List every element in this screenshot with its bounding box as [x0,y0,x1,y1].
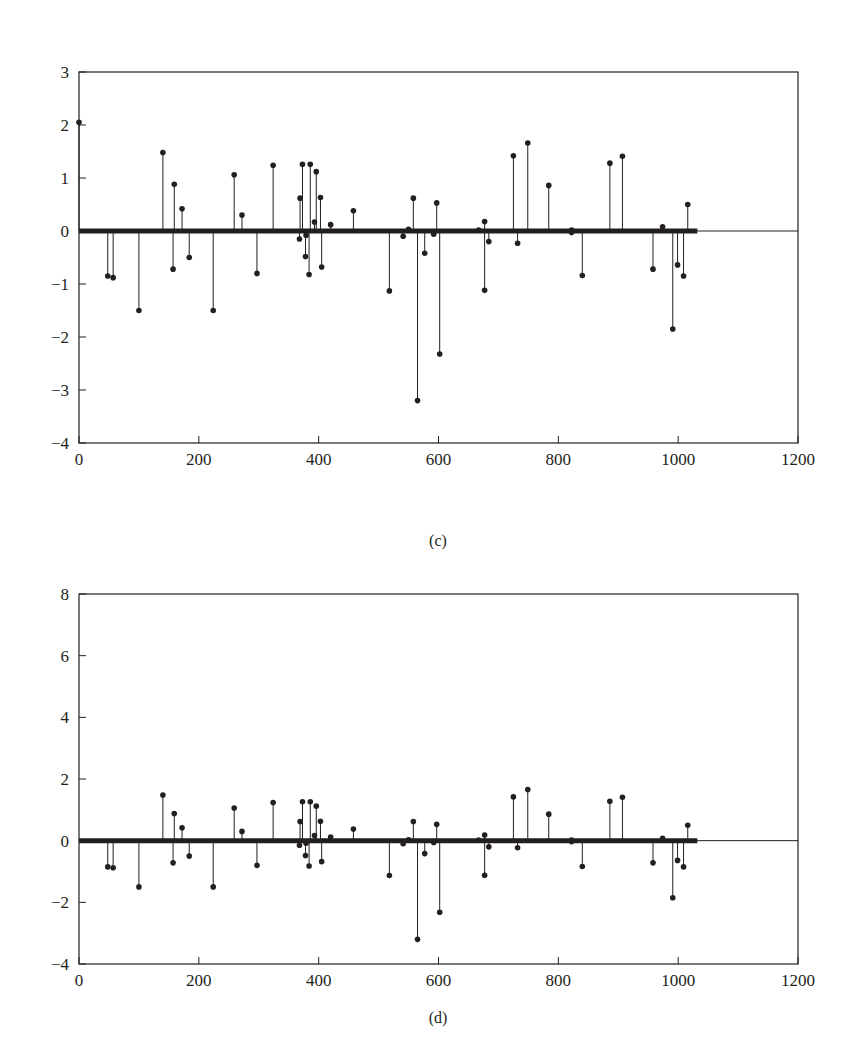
stem-marker [415,398,421,404]
stem-marker [313,169,319,175]
stem-marker [434,200,440,206]
stem-marker [239,829,245,835]
stem-marker [110,275,116,281]
stem-marker [239,212,245,218]
stem-marker [482,832,488,838]
stem-marker [415,937,421,943]
stem-marker [525,787,531,793]
stem-marker [171,811,177,817]
stem-marker [136,884,142,890]
stem-marker [482,872,488,878]
x-tick-label: 200 [186,450,212,469]
stem-marker [170,266,176,272]
stem-marker [434,822,440,828]
y-tick-label: −4 [51,434,70,453]
x-tick-label: 1200 [781,971,815,990]
y-tick-label: 8 [61,585,70,604]
figure: 020040060080010001200−4−3−2−10123 (c) 02… [0,0,859,1039]
stem-marker [670,326,676,332]
stem-marker [297,842,303,848]
stem-marker [171,182,177,188]
stem-marker [620,794,626,800]
stem-marker [179,825,185,831]
x-tick-label: 1000 [661,450,695,469]
stem-marker [387,873,393,879]
stem-marker [675,262,681,268]
stem-chart-c: 020040060080010001200−4−3−2−10123 [51,63,815,469]
stem-marker [160,792,166,798]
caption-c: (c) [429,532,447,550]
stem-marker [105,273,111,279]
stem-marker [681,864,687,870]
stem-marker [254,863,260,869]
stem-marker [319,859,325,865]
stem-marker [515,845,521,851]
stem-marker [313,803,319,809]
stem-marker [300,799,306,805]
x-tick-label: 0 [75,971,84,990]
y-tick-label: 6 [61,647,70,666]
stem-marker [681,273,687,279]
stem-marker [546,811,552,817]
stem-marker [486,239,492,245]
stem-marker [620,153,626,159]
stem-marker [300,161,306,167]
stem-marker [270,800,276,806]
stem-marker [306,863,312,869]
stem-marker [179,206,185,212]
y-tick-label: −1 [51,275,69,294]
stem-marker [422,250,428,256]
stem-marker [297,236,303,242]
stem-marker [607,160,613,166]
stem-marker [105,864,111,870]
stem-marker [319,264,325,270]
x-tick-label: 1200 [781,450,815,469]
stem-marker [650,266,656,272]
x-tick-label: 200 [186,971,212,990]
stem-marker [422,851,428,857]
y-tick-label: −2 [51,893,69,912]
x-tick-label: 400 [306,971,332,990]
stem-marker [318,818,324,824]
stem-marker [511,153,517,159]
y-tick-label: −3 [51,381,69,400]
stem-chart-d: 020040060080010001200−4−202468 [51,585,815,990]
stem-marker [170,860,176,866]
stem-marker [136,308,142,314]
stem-marker [580,273,586,279]
stem-marker [437,351,443,357]
stem-marker [328,222,334,228]
stem-marker [482,219,488,225]
x-tick-label: 800 [546,971,572,990]
stem-marker [110,865,116,871]
stem-marker [307,161,313,167]
stem-marker [437,909,443,915]
stem-marker [351,826,357,832]
x-tick-label: 600 [426,971,452,990]
stem-marker [210,884,216,890]
stem-marker [351,208,357,214]
stem-marker [231,805,237,811]
stem-marker [387,288,393,294]
stem-marker [515,240,521,246]
plot-frame [79,594,798,964]
stem-marker [303,853,309,859]
stem-marker [76,120,82,126]
stem-marker [303,254,309,260]
stem-marker [650,860,656,866]
y-tick-label: 1 [61,169,70,188]
x-tick-label: 1000 [661,971,695,990]
stem-marker [482,288,488,294]
stem-marker [511,794,517,800]
x-tick-label: 600 [426,450,452,469]
y-tick-label: −2 [51,328,69,347]
stem-marker [546,183,552,189]
x-tick-label: 400 [306,450,332,469]
stem-marker [307,799,313,805]
stem-marker [210,308,216,314]
stem-marker [186,853,192,859]
stem-marker [607,798,613,804]
stem-marker [318,195,324,201]
stem-marker [685,822,691,828]
x-tick-label: 0 [75,450,84,469]
